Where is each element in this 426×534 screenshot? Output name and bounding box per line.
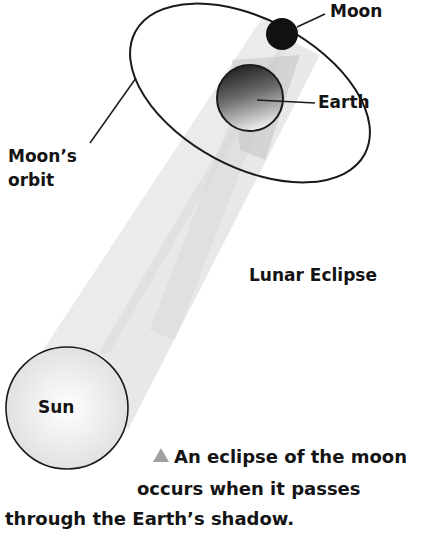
caption-line-1: An eclipse of the moon: [153, 446, 407, 467]
caption-line-1-text: An eclipse of the moon: [174, 446, 407, 467]
moons-orbit-label-line2: orbit: [8, 170, 54, 190]
moons-orbit-label-line1: Moon’s: [8, 146, 77, 166]
moon-circle: [266, 18, 298, 50]
diagram-title: Lunar Eclipse: [249, 265, 377, 285]
earth-label: Earth: [318, 92, 370, 112]
moon-label: Moon: [330, 1, 382, 21]
sun-label: Sun: [38, 397, 74, 417]
earth-circle: [217, 65, 283, 131]
caption-line-3: through the Earth’s shadow.: [5, 508, 294, 529]
triangle-up-icon: [153, 448, 169, 462]
orbit-leader-line: [90, 78, 136, 143]
moon-leader-line: [297, 14, 325, 27]
caption-line-2: occurs when it passes: [137, 478, 361, 499]
